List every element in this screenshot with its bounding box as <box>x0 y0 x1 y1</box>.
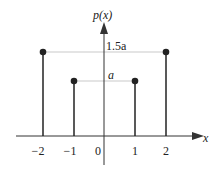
pmf-diagram: p(x) x 1.5a a −2 −1 0 1 2 <box>0 0 216 171</box>
stem-plus-2 <box>163 49 170 136</box>
tick-label-minus-2: −2 <box>32 144 45 158</box>
stem-minus-1 <box>71 78 78 136</box>
tick-label-minus-1: −1 <box>64 144 77 158</box>
x-axis-label: x <box>202 131 209 145</box>
tick-label-1: 1 <box>132 144 138 158</box>
level-label-low: a <box>108 68 114 82</box>
y-axis-label: p(x) <box>92 8 112 22</box>
level-label-high: 1.5a <box>106 39 127 53</box>
stem-minus-2 <box>40 49 47 136</box>
tick-label-0: 0 <box>95 144 101 158</box>
tick-label-2: 2 <box>163 144 169 158</box>
stem-plus-1 <box>132 78 139 136</box>
y-axis-arrow-icon <box>100 22 108 34</box>
